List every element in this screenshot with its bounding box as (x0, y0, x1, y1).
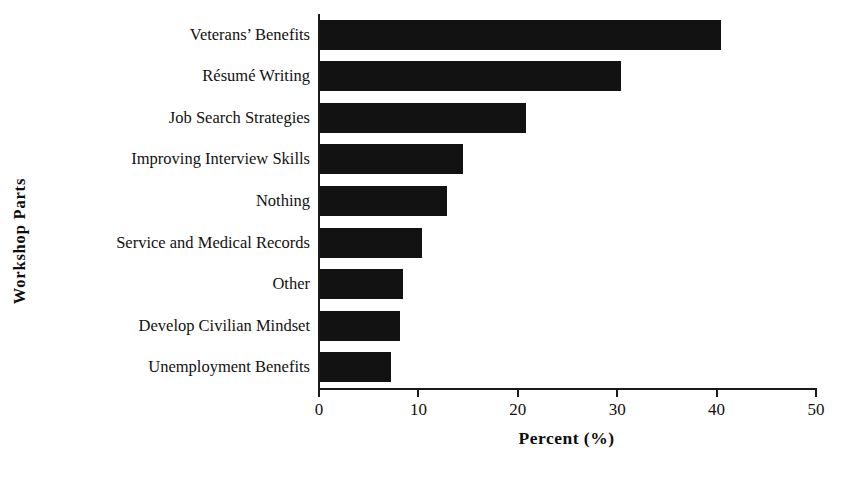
category-label: Résumé Writing (202, 68, 310, 85)
bar (320, 311, 400, 341)
x-axis-line (318, 388, 816, 390)
bar-row: Other (320, 269, 403, 299)
category-label: Develop Civilian Mindset (139, 317, 310, 334)
bar (320, 269, 403, 299)
category-label: Service and Medical Records (116, 234, 310, 251)
bar-row: Veterans’ Benefits (320, 20, 721, 50)
x-axis-tick (616, 388, 618, 397)
x-axis-tick-label: 30 (609, 400, 626, 420)
x-axis-tick-label: 20 (509, 400, 526, 420)
category-label: Unemployment Benefits (148, 359, 310, 376)
category-label: Job Search Strategies (169, 110, 310, 127)
x-axis-tick-label: 40 (708, 400, 725, 420)
x-axis-tick (417, 388, 419, 397)
x-axis-title: Percent (%) (318, 428, 815, 449)
bar-row: Improving Interview Skills (320, 144, 463, 174)
bar (320, 352, 391, 382)
bar-row: Develop Civilian Mindset (320, 311, 400, 341)
x-axis-tick-label: 10 (410, 400, 427, 420)
bar (320, 186, 447, 216)
category-label: Other (272, 276, 310, 293)
bar-row: Unemployment Benefits (320, 352, 391, 382)
x-axis-tick-label: 50 (808, 400, 825, 420)
x-axis-tick-label: 0 (315, 400, 324, 420)
x-axis-tick (815, 388, 817, 397)
category-label: Veterans’ Benefits (190, 27, 310, 44)
x-axis-tick (318, 388, 320, 397)
x-axis-tick (517, 388, 519, 397)
bar (320, 61, 621, 91)
bar (320, 20, 721, 50)
category-label: Nothing (256, 193, 310, 210)
bar-chart-figure: Workshop Parts Veterans’ BenefitsRésumé … (0, 0, 855, 482)
bar (320, 144, 463, 174)
bar-row: Service and Medical Records (320, 228, 422, 258)
x-axis-tick (716, 388, 718, 397)
bar-row: Résumé Writing (320, 61, 621, 91)
bar-row: Nothing (320, 186, 447, 216)
plot-area: Veterans’ BenefitsRésumé WritingJob Sear… (318, 14, 815, 388)
bar-row: Job Search Strategies (320, 103, 526, 133)
bar (320, 103, 526, 133)
bar (320, 228, 422, 258)
category-label: Improving Interview Skills (131, 151, 310, 168)
y-axis-title: Workshop Parts (0, 0, 40, 482)
